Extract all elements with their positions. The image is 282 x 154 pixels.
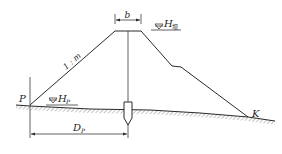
dam-water-level-subscript: 坝 (172, 23, 178, 31)
point-k-label: K (251, 108, 260, 119)
p-water-level-subscript: P (65, 98, 71, 105)
p-water-level-marker: H P (46, 93, 78, 105)
distance-subscript: P (80, 127, 86, 134)
point-p-label: P (18, 93, 26, 104)
well-pile (124, 102, 132, 125)
distance-dimension: D P (31, 122, 127, 136)
dam-diagram: b H 坝 1 : m P H P K D P (0, 0, 282, 154)
water-level-triangle-icon (155, 24, 163, 29)
crest-width-label: b (125, 10, 131, 20)
dam-body (30, 31, 248, 117)
distance-label: D (72, 122, 81, 133)
water-level-triangle-icon (49, 98, 57, 103)
dam-water-level-marker: H 坝 (151, 18, 181, 31)
crest-width-dimension: b (115, 10, 141, 24)
